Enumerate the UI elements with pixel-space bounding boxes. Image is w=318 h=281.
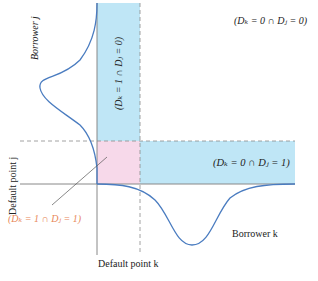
label-default-point-k: Default point k: [98, 259, 159, 269]
label-default-point-j: Default point j: [8, 157, 18, 215]
label-region-k1-j0: (Dₖ = 1 ∩ Dⱼ = 0): [114, 37, 124, 110]
label-borrower-k: Borrower k: [232, 229, 278, 239]
default-correlation-diagram: Borrower j Default point j (Dₖ = 1 ∩ Dⱼ …: [0, 0, 318, 281]
label-borrower-j: Borrower j: [30, 16, 40, 60]
borrower-j-curve: [40, 3, 97, 184]
label-region-k0-j1: (Dₖ = 0 ∩ Dⱼ = 1): [213, 158, 290, 169]
region-k1-j1: [97, 141, 140, 184]
label-region-k1-j1: (Dₖ = 1 ∩ Dⱼ = 1): [8, 214, 81, 224]
label-region-k0-j0: (Dₖ = 0 ∩ Dⱼ = 0): [234, 16, 307, 26]
